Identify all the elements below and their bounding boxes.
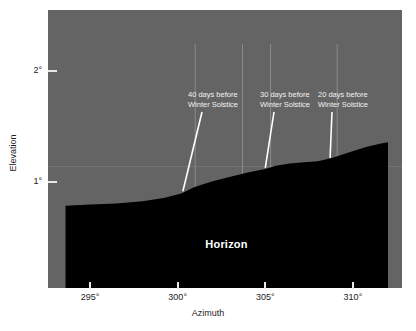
y-tick-mark-2deg	[48, 70, 57, 72]
y-tick-label-1deg: 1°	[33, 176, 42, 186]
annotation-40-days-line2: Winter Solstice	[188, 100, 238, 110]
horizon-fill-shape	[66, 142, 389, 288]
plot-area: Horizon 40 days before Winter Solstice 3…	[48, 10, 402, 288]
annot-30-days-leader-line	[265, 112, 274, 168]
annotation-30-days-line2: Winter Solstice	[260, 100, 310, 110]
y-tick-mark-1deg	[48, 181, 57, 183]
x-tick-mark-310deg	[352, 282, 354, 289]
annot-40-days-leader-line	[183, 112, 202, 191]
x-axis-title: Azimuth	[0, 308, 416, 318]
x-tick-label-310deg: 310°	[328, 292, 378, 302]
annotation-20-days-line1: 20 days before	[318, 90, 368, 100]
x-tick-label-300deg: 300°	[153, 292, 203, 302]
y-axis-title: Elevation	[8, 118, 18, 188]
horizon-elevation-chart: Horizon 40 days before Winter Solstice 3…	[0, 0, 416, 331]
x-tick-label-305deg: 305°	[240, 292, 290, 302]
x-tick-mark-295deg	[89, 282, 91, 289]
annotation-30-days-line1: 30 days before	[260, 90, 310, 100]
horizon-label: Horizon	[73, 238, 380, 250]
annotation-40-days-before-winter-solstice: 40 days before Winter Solstice	[188, 90, 238, 109]
annot-20-days-leader-line	[330, 112, 332, 158]
annotation-30-days-before-winter-solstice: 30 days before Winter Solstice	[260, 90, 310, 109]
annotation-40-days-line1: 40 days before	[188, 90, 238, 100]
y-tick-label-2deg: 2°	[33, 65, 42, 75]
x-tick-mark-305deg	[264, 282, 266, 289]
annotation-20-days-before-winter-solstice: 20 days before Winter Solstice	[318, 90, 368, 109]
x-tick-label-295deg: 295°	[65, 292, 115, 302]
x-tick-mark-300deg	[177, 282, 179, 289]
annotation-20-days-line2: Winter Solstice	[318, 100, 368, 110]
